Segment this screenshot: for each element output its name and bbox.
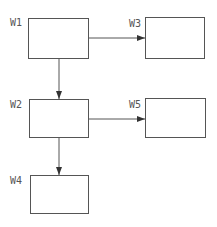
diagram-canvas: W1W2W3W4W5 bbox=[0, 0, 217, 227]
node-box-w3 bbox=[145, 17, 205, 59]
node-label-w1: W1 bbox=[10, 18, 22, 28]
node-box-w2 bbox=[29, 99, 89, 138]
node-label-w4: W4 bbox=[10, 176, 22, 186]
node-label-w2: W2 bbox=[10, 100, 22, 110]
node-box-w1 bbox=[28, 18, 89, 59]
node-box-w5 bbox=[145, 98, 206, 138]
node-label-w3: W3 bbox=[129, 19, 141, 29]
node-box-w4 bbox=[30, 175, 89, 214]
node-label-w5: W5 bbox=[129, 100, 141, 110]
